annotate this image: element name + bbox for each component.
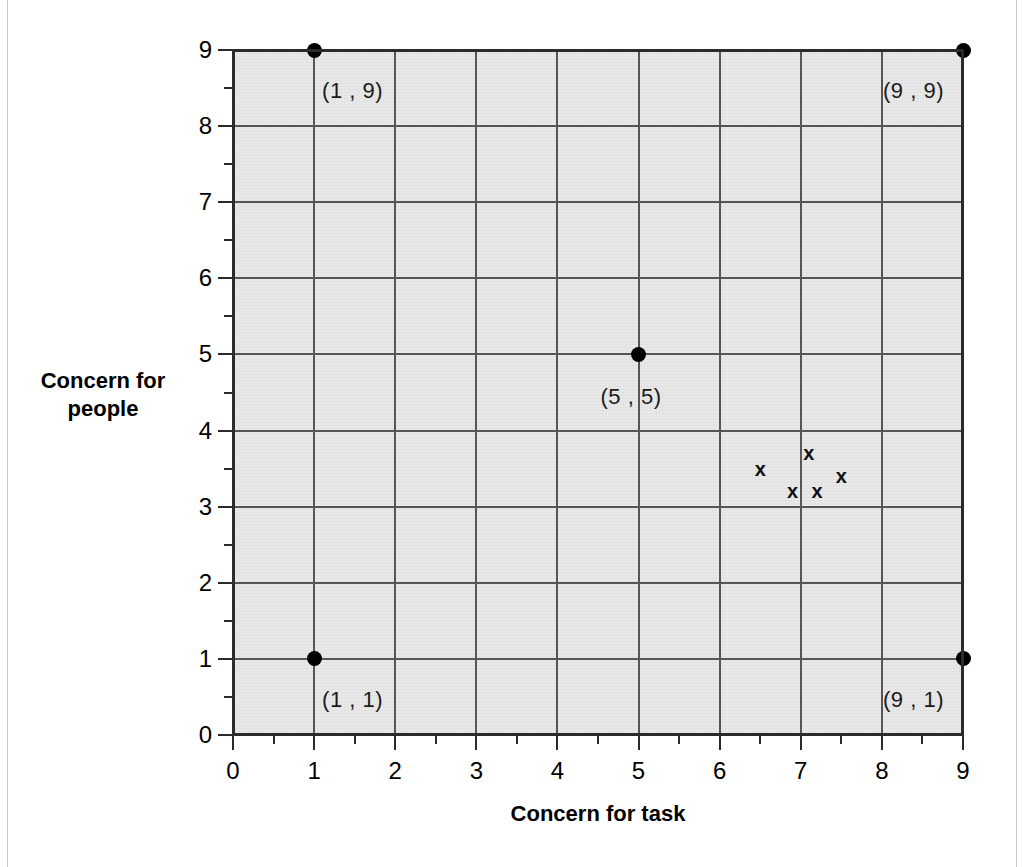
gridline-vertical-7 — [800, 50, 802, 735]
y-tick-minor-8.5 — [224, 87, 233, 89]
x-marker: x — [836, 466, 847, 486]
y-tick-minor-0.5 — [224, 696, 233, 698]
x-tick-3 — [475, 735, 477, 750]
y-tick-6 — [218, 277, 233, 279]
x-tick-9 — [962, 735, 964, 750]
y-tick-minor-3.5 — [224, 468, 233, 470]
scan-texture-overlay — [233, 50, 963, 735]
y-tick-5 — [218, 353, 233, 355]
x-tick-label-4: 4 — [551, 757, 564, 785]
gridline-horizontal-2 — [233, 582, 963, 584]
leadership-grid-chart: (1 , 9)(9 , 9)(5 , 5)(1 , 1)(9 , 1)xxxxx… — [0, 0, 1023, 867]
y-tick-minor-4.5 — [224, 392, 233, 394]
data-point-label-1-1: (1 , 1) — [322, 687, 383, 713]
x-tick-minor-6.5 — [759, 735, 761, 744]
gridline-horizontal-4 — [233, 430, 963, 432]
x-tick-label-6: 6 — [713, 757, 726, 785]
y-tick-label-6: 6 — [186, 264, 212, 292]
x-tick-minor-1.5 — [354, 735, 356, 744]
x-tick-7 — [800, 735, 802, 750]
y-tick-label-8: 8 — [186, 112, 212, 140]
gridline-vertical-6 — [719, 50, 721, 735]
x-tick-label-5: 5 — [632, 757, 645, 785]
x-axis-title: Concern for task — [233, 801, 963, 827]
data-point-label-9-9: (9 , 9) — [883, 78, 944, 104]
y-axis-title-line-2: people — [28, 395, 178, 423]
x-tick-label-3: 3 — [470, 757, 483, 785]
gridline-horizontal-1 — [233, 658, 963, 660]
y-tick-0 — [218, 734, 233, 736]
x-tick-minor-7.5 — [840, 735, 842, 744]
y-tick-label-2: 2 — [186, 569, 212, 597]
gridline-vertical-4 — [556, 50, 558, 735]
x-marker: x — [811, 481, 822, 501]
x-tick-4 — [556, 735, 558, 750]
y-axis-title-line-1: Concern for — [28, 367, 178, 395]
x-marker: x — [787, 481, 798, 501]
gridline-vertical-1 — [313, 50, 315, 735]
y-axis-title: Concern for people — [28, 367, 178, 422]
x-tick-minor-8.5 — [921, 735, 923, 744]
x-tick-label-2: 2 — [389, 757, 402, 785]
plot-frame-top — [233, 49, 963, 52]
y-tick-4 — [218, 430, 233, 432]
y-tick-8 — [218, 125, 233, 127]
gridline-vertical-3 — [475, 50, 477, 735]
x-tick-minor-4.5 — [597, 735, 599, 744]
y-tick-label-7: 7 — [186, 188, 212, 216]
y-tick-label-4: 4 — [186, 417, 212, 445]
y-tick-minor-5.5 — [224, 315, 233, 317]
x-tick-label-0: 0 — [226, 757, 239, 785]
gridline-horizontal-3 — [233, 506, 963, 508]
y-tick-minor-2.5 — [224, 544, 233, 546]
plot-area: (1 , 9)(9 , 9)(5 , 5)(1 , 1)(9 , 1)xxxxx — [233, 50, 963, 735]
plot-frame-right — [961, 50, 964, 735]
data-point-5-5 — [631, 347, 646, 362]
x-tick-5 — [638, 735, 640, 750]
x-tick-label-8: 8 — [875, 757, 888, 785]
x-tick-0 — [232, 735, 234, 750]
y-tick-label-5: 5 — [186, 340, 212, 368]
data-point-label-9-1: (9 , 1) — [883, 687, 944, 713]
x-tick-label-7: 7 — [794, 757, 807, 785]
x-tick-minor-3.5 — [516, 735, 518, 744]
gridline-horizontal-8 — [233, 125, 963, 127]
x-marker: x — [755, 459, 766, 479]
data-point-label-5-5: (5 , 5) — [601, 384, 662, 410]
y-tick-9 — [218, 49, 233, 51]
y-tick-7 — [218, 201, 233, 203]
x-tick-minor-0.5 — [273, 735, 275, 744]
y-tick-minor-6.5 — [224, 239, 233, 241]
y-tick-minor-1.5 — [224, 620, 233, 622]
x-tick-minor-2.5 — [435, 735, 437, 744]
gridline-horizontal-5 — [233, 353, 963, 355]
x-tick-2 — [394, 735, 396, 750]
x-tick-label-9: 9 — [956, 757, 969, 785]
x-tick-8 — [881, 735, 883, 750]
gridline-vertical-2 — [394, 50, 396, 735]
gridline-vertical-8 — [881, 50, 883, 735]
x-tick-1 — [313, 735, 315, 750]
y-tick-label-3: 3 — [186, 493, 212, 521]
gridline-horizontal-7 — [233, 201, 963, 203]
y-tick-label-9: 9 — [186, 36, 212, 64]
x-tick-label-1: 1 — [307, 757, 320, 785]
y-tick-label-1: 1 — [186, 645, 212, 673]
gridline-horizontal-6 — [233, 277, 963, 279]
x-marker: x — [803, 443, 814, 463]
y-tick-1 — [218, 658, 233, 660]
x-tick-minor-5.5 — [678, 735, 680, 744]
y-tick-minor-7.5 — [224, 163, 233, 165]
data-point-1-1 — [307, 651, 322, 666]
x-tick-6 — [719, 735, 721, 750]
y-tick-3 — [218, 506, 233, 508]
y-tick-2 — [218, 582, 233, 584]
y-tick-label-0: 0 — [186, 721, 212, 749]
data-point-label-1-9: (1 , 9) — [322, 78, 383, 104]
